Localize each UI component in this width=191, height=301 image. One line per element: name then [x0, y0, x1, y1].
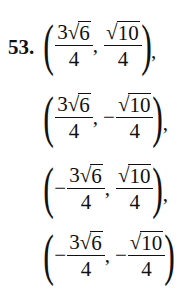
open-paren: ( [43, 159, 54, 217]
trailing-comma: , [163, 111, 168, 136]
y-radicand: 10 [140, 231, 163, 254]
y-fraction: √10 4 [116, 92, 154, 143]
solution-point-4: ( − 3√6 4 , − √10 4 ) [44, 224, 175, 286]
x-denominator: 4 [69, 46, 80, 71]
x-sign: − [54, 176, 66, 201]
x-fraction: 3√6 4 [55, 92, 93, 143]
x-radicand: 6 [90, 164, 103, 187]
x-denominator: 4 [81, 189, 92, 214]
close-paren: ) [141, 16, 152, 74]
x-denominator: 4 [81, 256, 92, 281]
x-sign: − [54, 243, 66, 268]
close-paren: ) [165, 226, 176, 284]
problem-number: 53. [8, 35, 34, 60]
separator: , [105, 176, 110, 201]
y-denominator: 4 [129, 118, 140, 143]
y-denominator: 4 [118, 46, 129, 71]
trailing-comma: , [163, 182, 168, 207]
y-fraction: √10 4 [128, 230, 166, 281]
x-fraction: 3√6 4 [67, 163, 105, 214]
y-radicand: 10 [128, 93, 151, 116]
solution-point-1: ( 3√6 4 , √10 4 ) , [44, 14, 156, 76]
x-radicand: 6 [78, 93, 91, 116]
y-fraction: √10 4 [104, 20, 142, 71]
x-radicand: 6 [78, 21, 91, 44]
x-coef: 3 [57, 20, 68, 44]
open-paren: ( [43, 16, 54, 74]
y-denominator: 4 [141, 256, 152, 281]
separator: , [93, 33, 98, 58]
y-fraction: √10 4 [116, 163, 154, 214]
x-fraction: 3√6 4 [67, 230, 105, 281]
y-denominator: 4 [129, 189, 140, 214]
close-paren: ) [153, 159, 164, 217]
x-coef: 3 [69, 163, 80, 187]
y-sign: − [115, 243, 127, 268]
x-coef: 3 [57, 92, 68, 116]
close-paren: ) [153, 88, 164, 146]
y-radicand: 10 [128, 164, 151, 187]
x-radicand: 6 [90, 231, 103, 254]
open-paren: ( [43, 226, 54, 284]
x-fraction: 3√6 4 [55, 20, 93, 71]
x-denominator: 4 [69, 118, 80, 143]
separator: , [93, 105, 98, 130]
solution-point-3: ( − 3√6 4 , √10 4 ) , [44, 157, 168, 219]
y-sign: − [103, 105, 115, 130]
solution-point-2: ( 3√6 4 , − √10 4 ) , [44, 86, 168, 148]
separator: , [105, 243, 110, 268]
y-radicand: 10 [117, 21, 140, 44]
open-paren: ( [43, 88, 54, 146]
x-coef: 3 [69, 230, 80, 254]
